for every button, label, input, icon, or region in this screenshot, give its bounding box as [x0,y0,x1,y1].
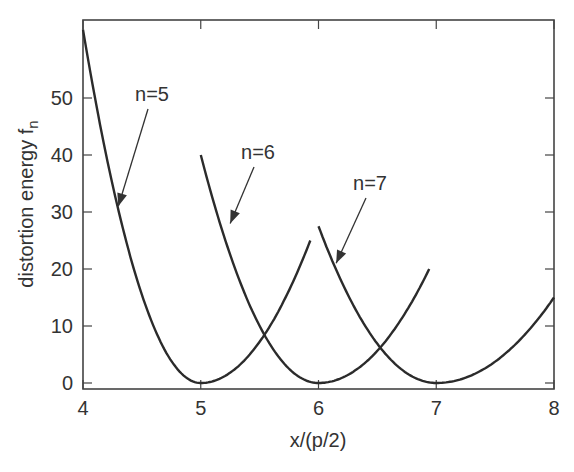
y-tick-label: 30 [51,201,73,223]
annotation-label: n=6 [241,141,275,163]
y-tick-label: 20 [51,258,73,280]
x-tick-label: 6 [313,397,324,419]
y-axis-label-subscript: n [24,120,41,128]
x-tick-label: 5 [195,397,206,419]
x-tick-label: 8 [548,397,559,419]
y-tick-label: 0 [62,372,73,394]
y-axis-label-main: distortion energy f [15,128,37,287]
annotation-label: n=7 [353,172,387,194]
annotation-arrow [118,109,148,206]
chart-canvas: 45678 01020304050 n=5n=6n=7 x/(p/2) dist… [0,0,574,472]
y-tick-label: 40 [51,144,73,166]
y-axis-label: distortion energy fn [15,120,41,287]
curve-n-5 [83,30,310,383]
plot-frame [83,20,554,389]
x-tick-label: 4 [77,397,88,419]
annotations: n=5n=6n=7 [117,83,387,263]
x-tick-label: 7 [431,397,442,419]
x-axis-ticks: 45678 [77,20,559,419]
y-tick-label: 10 [51,315,73,337]
x-axis-label: x/(p/2) [290,429,347,451]
y-tick-label: 50 [51,87,73,109]
arrowhead-icon [336,249,346,263]
arrowhead-icon [117,192,127,206]
arrowhead-icon [230,209,240,223]
annotation-label: n=5 [135,83,169,105]
curve-n-6 [201,155,429,383]
curve-n-7 [319,226,555,383]
